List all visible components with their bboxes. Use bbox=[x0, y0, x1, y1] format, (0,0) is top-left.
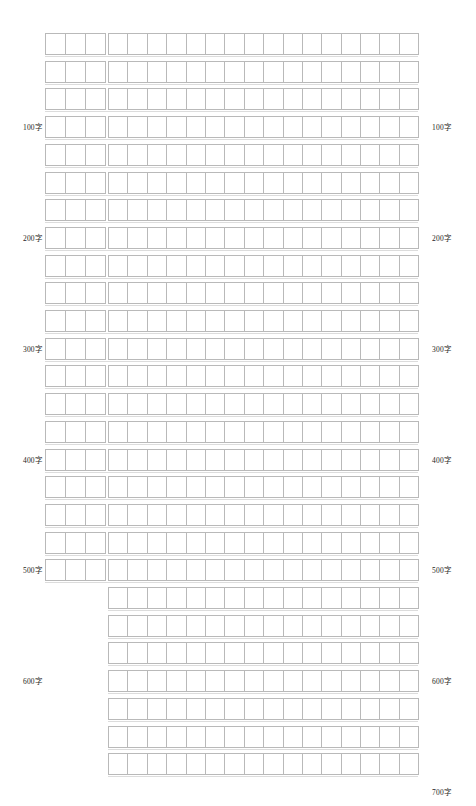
grid-cell[interactable] bbox=[303, 394, 322, 414]
grid-cell[interactable] bbox=[167, 117, 186, 137]
grid-cell[interactable] bbox=[187, 643, 206, 663]
grid-cell[interactable] bbox=[361, 394, 380, 414]
grid-cell[interactable] bbox=[284, 34, 303, 54]
grid-cell[interactable] bbox=[187, 671, 206, 691]
grid-cell[interactable] bbox=[284, 283, 303, 303]
grid-block-right[interactable] bbox=[108, 670, 419, 692]
grid-cell[interactable] bbox=[284, 533, 303, 553]
grid-cell[interactable] bbox=[206, 117, 225, 137]
grid-block-right[interactable] bbox=[108, 227, 419, 249]
grid-cell[interactable] bbox=[86, 62, 106, 82]
grid-cell[interactable] bbox=[148, 117, 167, 137]
grid-cell[interactable] bbox=[46, 339, 66, 359]
grid-cell[interactable] bbox=[225, 699, 244, 719]
grid-cell[interactable] bbox=[46, 422, 66, 442]
grid-cell[interactable] bbox=[187, 339, 206, 359]
grid-cell[interactable] bbox=[46, 117, 66, 137]
grid-cell[interactable] bbox=[86, 283, 106, 303]
grid-cell[interactable] bbox=[187, 754, 206, 774]
grid-block-right[interactable] bbox=[108, 642, 419, 664]
grid-cell[interactable] bbox=[86, 200, 106, 220]
grid-cell[interactable] bbox=[322, 34, 341, 54]
grid-cell[interactable] bbox=[148, 477, 167, 497]
grid-cell[interactable] bbox=[187, 256, 206, 276]
grid-cell[interactable] bbox=[322, 173, 341, 193]
grid-cell[interactable] bbox=[303, 560, 322, 580]
grid-cell[interactable] bbox=[400, 311, 419, 331]
grid-cell[interactable] bbox=[400, 754, 419, 774]
grid-cell[interactable] bbox=[284, 560, 303, 580]
grid-cell[interactable] bbox=[322, 62, 341, 82]
grid-cell[interactable] bbox=[380, 366, 399, 386]
grid-cell[interactable] bbox=[148, 671, 167, 691]
grid-cell[interactable] bbox=[128, 200, 147, 220]
grid-block-left[interactable] bbox=[45, 88, 106, 110]
grid-cell[interactable] bbox=[284, 671, 303, 691]
grid-cell[interactable] bbox=[206, 505, 225, 525]
grid-cell[interactable] bbox=[264, 671, 283, 691]
grid-cell[interactable] bbox=[109, 505, 128, 525]
grid-cell[interactable] bbox=[148, 34, 167, 54]
grid-cell[interactable] bbox=[342, 145, 361, 165]
grid-block-right[interactable] bbox=[108, 449, 419, 471]
grid-cell[interactable] bbox=[206, 89, 225, 109]
grid-cell[interactable] bbox=[225, 89, 244, 109]
grid-cell[interactable] bbox=[380, 477, 399, 497]
grid-cell[interactable] bbox=[245, 450, 264, 470]
grid-cell[interactable] bbox=[322, 450, 341, 470]
grid-cell[interactable] bbox=[303, 173, 322, 193]
grid-cell[interactable] bbox=[86, 34, 106, 54]
grid-cell[interactable] bbox=[206, 283, 225, 303]
grid-cell[interactable] bbox=[284, 145, 303, 165]
grid-cell[interactable] bbox=[148, 505, 167, 525]
grid-cell[interactable] bbox=[128, 505, 147, 525]
grid-cell[interactable] bbox=[245, 34, 264, 54]
grid-cell[interactable] bbox=[128, 311, 147, 331]
grid-cell[interactable] bbox=[380, 643, 399, 663]
grid-cell[interactable] bbox=[206, 699, 225, 719]
grid-cell[interactable] bbox=[46, 533, 66, 553]
grid-cell[interactable] bbox=[66, 117, 86, 137]
grid-cell[interactable] bbox=[128, 616, 147, 636]
grid-cell[interactable] bbox=[86, 394, 106, 414]
grid-block-left[interactable] bbox=[45, 255, 106, 277]
grid-cell[interactable] bbox=[303, 62, 322, 82]
grid-cell[interactable] bbox=[361, 616, 380, 636]
grid-block-right[interactable] bbox=[108, 421, 419, 443]
grid-cell[interactable] bbox=[206, 643, 225, 663]
grid-cell[interactable] bbox=[303, 505, 322, 525]
grid-cell[interactable] bbox=[245, 117, 264, 137]
grid-cell[interactable] bbox=[400, 339, 419, 359]
grid-cell[interactable] bbox=[187, 145, 206, 165]
grid-cell[interactable] bbox=[361, 422, 380, 442]
grid-cell[interactable] bbox=[361, 34, 380, 54]
grid-cell[interactable] bbox=[66, 256, 86, 276]
grid-cell[interactable] bbox=[303, 477, 322, 497]
grid-block-left[interactable] bbox=[45, 33, 106, 55]
grid-cell[interactable] bbox=[264, 89, 283, 109]
grid-cell[interactable] bbox=[109, 34, 128, 54]
grid-cell[interactable] bbox=[109, 62, 128, 82]
grid-cell[interactable] bbox=[380, 34, 399, 54]
grid-cell[interactable] bbox=[187, 477, 206, 497]
grid-cell[interactable] bbox=[245, 173, 264, 193]
grid-cell[interactable] bbox=[361, 450, 380, 470]
grid-cell[interactable] bbox=[322, 422, 341, 442]
grid-cell[interactable] bbox=[225, 117, 244, 137]
grid-cell[interactable] bbox=[225, 671, 244, 691]
grid-cell[interactable] bbox=[322, 228, 341, 248]
grid-cell[interactable] bbox=[167, 200, 186, 220]
grid-cell[interactable] bbox=[264, 450, 283, 470]
grid-block-left[interactable] bbox=[45, 310, 106, 332]
grid-cell[interactable] bbox=[66, 450, 86, 470]
grid-cell[interactable] bbox=[167, 533, 186, 553]
grid-cell[interactable] bbox=[148, 533, 167, 553]
grid-cell[interactable] bbox=[128, 727, 147, 747]
grid-cell[interactable] bbox=[206, 422, 225, 442]
grid-cell[interactable] bbox=[206, 754, 225, 774]
grid-cell[interactable] bbox=[400, 145, 419, 165]
grid-cell[interactable] bbox=[187, 533, 206, 553]
grid-cell[interactable] bbox=[380, 754, 399, 774]
grid-cell[interactable] bbox=[380, 394, 399, 414]
grid-cell[interactable] bbox=[46, 505, 66, 525]
